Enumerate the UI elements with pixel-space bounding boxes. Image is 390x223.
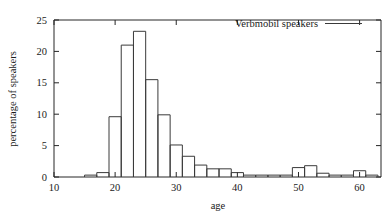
y-tick-label: 25 [37,15,48,26]
y-tick-label: 5 [42,140,47,151]
histogram-outline [85,31,378,177]
x-tick-label: 30 [171,182,182,193]
y-axis-ticks: 0510152025 [37,15,382,183]
axis-frame [54,20,381,177]
y-axis-title: percentage of speakers [7,51,18,147]
y-tick-label: 10 [37,109,48,120]
y-tick-label: 15 [37,77,48,88]
x-tick-label: 40 [232,182,243,193]
y-tick-label: 0 [42,172,47,183]
legend-entry-label: Verbmobil speakers [235,18,318,29]
x-tick-label: 60 [354,182,365,193]
x-tick-label: 10 [49,182,60,193]
histogram-chart: 0510152025 102030405060 Verbmobil speake… [0,0,390,223]
chart-canvas: 0510152025 102030405060 Verbmobil speake… [0,0,390,223]
plot-border [54,20,381,177]
histogram-bars [85,31,378,177]
x-axis-title: age [211,200,226,211]
y-tick-label: 20 [37,46,48,57]
x-tick-label: 50 [293,182,304,193]
x-tick-label: 20 [110,182,121,193]
